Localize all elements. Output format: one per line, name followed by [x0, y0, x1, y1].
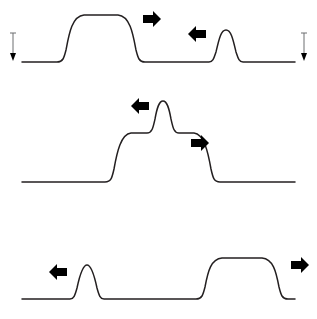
panel-before	[10, 11, 307, 62]
right-end-marker	[301, 33, 307, 61]
arrow-right-wide-pulse	[291, 257, 309, 273]
arrow-left-narrow-pulse	[188, 26, 206, 42]
arrow-left-narrow-component	[131, 98, 149, 114]
arrow-down-icon	[10, 53, 16, 61]
arrow-right-icon	[143, 11, 161, 27]
arrow-left-icon	[49, 264, 67, 280]
left-end-marker	[10, 33, 16, 61]
arrow-left-icon	[188, 26, 206, 42]
wave-path-before	[22, 15, 295, 62]
left-end-marker-line	[10, 33, 16, 55]
arrow-left-narrow-pulse	[49, 264, 67, 280]
panel-after	[22, 257, 309, 299]
panel-during	[22, 98, 295, 182]
wave-superposition-figure	[0, 0, 317, 319]
figure-canvas	[0, 0, 317, 319]
arrow-down-icon	[301, 53, 307, 61]
right-end-marker-line	[301, 33, 307, 55]
wave-path-during	[22, 101, 295, 182]
arrow-right-wide-pulse	[143, 11, 161, 27]
wave-path-after	[22, 258, 295, 299]
arrow-left-icon	[131, 98, 149, 114]
arrow-right-icon	[291, 257, 309, 273]
